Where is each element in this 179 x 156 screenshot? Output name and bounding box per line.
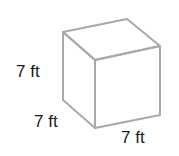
width-label: 7 ft [121,129,145,146]
cube-front-face [95,46,160,128]
depth-label: 7 ft [34,113,58,130]
height-label: 7 ft [16,63,40,80]
cube-diagram: 7 ft 7 ft 7 ft [0,0,179,156]
cube-left-face [63,32,95,128]
cube-top-face [63,19,160,60]
